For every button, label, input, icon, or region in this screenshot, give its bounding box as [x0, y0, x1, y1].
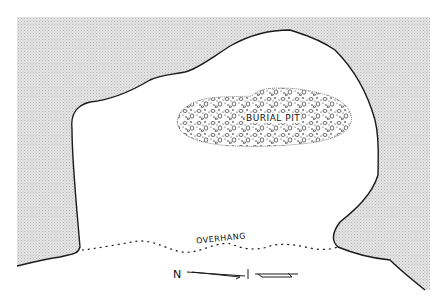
north-label: N: [173, 268, 182, 281]
north-arrow: [187, 269, 298, 279]
rockshelter-plan-drawing: [0, 0, 445, 300]
burial-pit-label: BURIAL PIT: [245, 113, 301, 123]
